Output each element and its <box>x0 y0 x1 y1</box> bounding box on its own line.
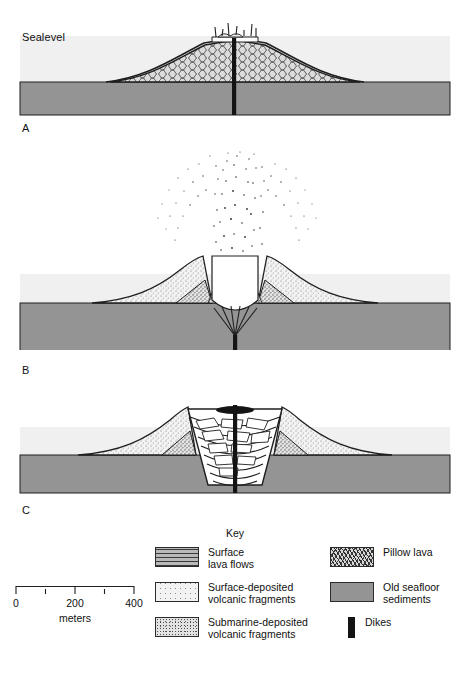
key-label: Surface-deposited volcanic fragments <box>208 581 296 606</box>
panel-b-letter: B <box>22 364 30 376</box>
scale-label-0: 0 <box>13 597 19 609</box>
key-item-submarine-deposited-fragments: Submarine-deposited volcanic fragments <box>155 616 330 642</box>
key-item-pillow-lava: Pillow lava <box>330 546 470 572</box>
scale-units-label: meters <box>14 612 136 624</box>
panel-a-diagram <box>0 18 470 118</box>
central-dike <box>233 405 237 493</box>
key-label: Pillow lava <box>383 546 433 558</box>
panel-c-diagram <box>0 385 470 500</box>
pillow-lava-swatch-icon <box>330 547 374 567</box>
eruption-column <box>158 151 317 251</box>
sealevel-label: Sealevel <box>22 31 65 43</box>
panel-b-diagram <box>0 150 470 350</box>
panel-b: B <box>0 150 470 350</box>
key-column-right: Pillow lava Old seafloor sediments Dikes <box>330 546 470 651</box>
vent-throat <box>212 256 258 310</box>
dike-summit-pool <box>216 406 254 414</box>
key-label: Dikes <box>365 616 391 628</box>
old-seafloor-sediments-swatch-icon <box>330 582 374 602</box>
scale-bar-ticks <box>14 583 144 597</box>
key-column-left: Surface lava flows Surface-deposited vol… <box>155 546 330 651</box>
submarine-deposited-volcanic-fragments-swatch-icon <box>155 617 199 637</box>
key-title: Key <box>0 527 470 539</box>
key-item-old-seafloor-sediments: Old seafloor sediments <box>330 581 470 607</box>
panel-a-letter: A <box>22 122 30 134</box>
panel-a: A <box>0 18 470 118</box>
scale-label-400: 400 <box>125 597 143 609</box>
key-label: Surface lava flows <box>208 546 254 571</box>
scale-bar-numbers: 0 200 400 <box>14 597 144 611</box>
dikes-swatch-icon <box>348 617 355 638</box>
panel-c: C <box>0 385 470 500</box>
surface-lava-flows-swatch-icon <box>155 547 199 567</box>
key-label: Submarine-deposited volcanic fragments <box>208 616 308 641</box>
key-item-surface-lava-flows: Surface lava flows <box>155 546 330 572</box>
key-item-dikes: Dikes <box>330 616 470 642</box>
surface-deposited-volcanic-fragments-swatch-icon <box>155 582 199 602</box>
key-label: Old seafloor sediments <box>383 581 440 606</box>
scale-bar: 0 200 400 meters <box>14 583 144 633</box>
key-item-surface-deposited-fragments: Surface-deposited volcanic fragments <box>155 581 330 607</box>
feeder-dike <box>232 38 236 115</box>
scale-label-200: 200 <box>66 597 84 609</box>
panel-c-letter: C <box>22 504 30 516</box>
feeder-dike <box>233 335 237 350</box>
volcano-evolution-figure: A Sealevel <box>0 0 470 673</box>
